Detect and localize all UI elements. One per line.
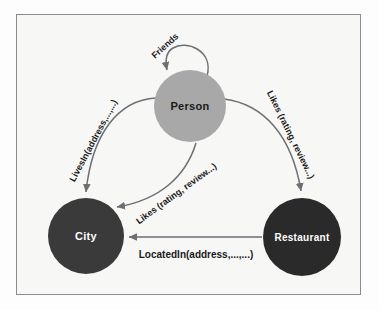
node-person[interactable]: Person — [154, 70, 226, 142]
edge-located-in-label: LocatedIn(address,...,...) — [139, 249, 253, 260]
node-restaurant-label: Restaurant — [274, 232, 330, 243]
edge-likes-restaurant: Likes (rating, review...) — [224, 89, 316, 191]
edge-likes-city-label: Likes (rating, review...) — [134, 161, 218, 226]
node-city-label: City — [75, 230, 98, 242]
node-restaurant[interactable]: Restaurant — [263, 198, 341, 276]
node-person-label: Person — [170, 100, 209, 112]
edge-likes-city: Likes (rating, review...) — [117, 143, 218, 226]
node-city[interactable]: City — [48, 198, 124, 274]
edge-friends-label: Friends — [150, 31, 181, 60]
edge-located-in: LocatedIn(address,...,...) — [129, 237, 262, 260]
edge-friends: Friends — [150, 31, 209, 76]
edge-likes-city-path — [117, 143, 196, 207]
graph-diagram: Friends LivesIn(address,...,...) Likes (… — [0, 0, 379, 310]
edge-lives-in-label: LivesIn(address,...,...) — [67, 98, 119, 184]
diagram-canvas: Friends LivesIn(address,...,...) Likes (… — [0, 0, 379, 310]
edge-likes-restaurant-path — [224, 99, 301, 191]
edge-lives-in: LivesIn(address,...,...) — [67, 98, 156, 192]
edge-likes-restaurant-label: Likes (rating, review...) — [265, 89, 316, 180]
